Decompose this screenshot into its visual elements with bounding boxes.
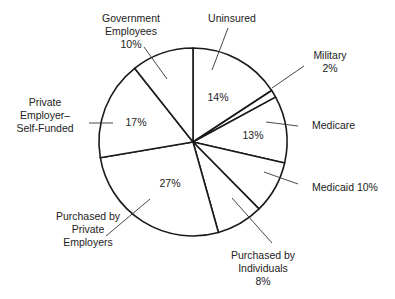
value-uninsured: 14% (207, 91, 228, 103)
label-purchased-by-individuals: Purchased byIndividuals8% (231, 249, 296, 287)
label-uninsured: Uninsured (208, 12, 256, 24)
label-medicaid: Medicaid 10% (312, 181, 378, 193)
value-purchased-by-private-employers: 27% (159, 177, 180, 189)
label-medicare: Medicare (312, 119, 355, 131)
leader-line-military (272, 66, 304, 88)
pie-chart: UninsuredMilitary2%MedicareMedicaid 10%P… (0, 0, 395, 299)
label-military: Military2% (313, 49, 347, 74)
label-government-employees: GovernmentEmployees10% (102, 12, 160, 50)
pie-slices (99, 48, 287, 236)
label-purchased-by-private-employers: Purchased byPrivateEmployers (56, 210, 121, 248)
value-private-employer-self-funded: 17% (125, 116, 146, 128)
value-medicare: 13% (242, 129, 263, 141)
label-private-employer-self-funded: PrivateEmployer–Self-Funded (16, 96, 73, 134)
